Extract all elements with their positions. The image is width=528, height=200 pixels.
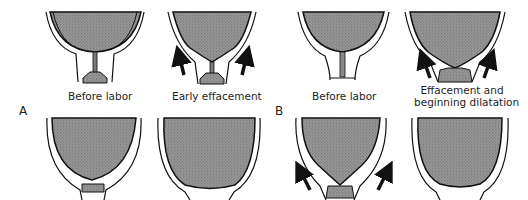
arrow-up-icon (378, 170, 388, 190)
panel-b-complete-effacement-dilatation (412, 118, 508, 200)
cervical-effacement-figure: Before labor Early effacement Before lab… (0, 0, 528, 200)
panel-b-further-effacement-dilatation (296, 118, 388, 200)
label-b-effacement-and: Effacement and (414, 84, 510, 96)
label-a-before-labor: Before labor (68, 90, 128, 102)
label-b-before-labor: Before labor (312, 90, 372, 102)
label-a-early-effacement: Early effacement (172, 90, 256, 102)
sequence-letter-a: A (19, 104, 27, 118)
panel-b-effacement-beginning-dilatation (405, 12, 505, 82)
arrow-up-icon (484, 58, 491, 78)
sequence-letter-b: B (275, 104, 283, 118)
arrow-up-icon (300, 170, 310, 190)
panel-a-effacement-progressing (47, 118, 141, 200)
arrow-up-icon (242, 55, 247, 75)
label-b-beginning-dilatation: beginning dilatation (414, 96, 510, 108)
panel-b-before-labor (298, 12, 389, 80)
panel-a-complete-effacement (158, 118, 260, 200)
panel-a-early-effacement (168, 12, 256, 84)
arrow-up-icon (179, 55, 184, 75)
panel-a-before-labor (46, 12, 144, 83)
